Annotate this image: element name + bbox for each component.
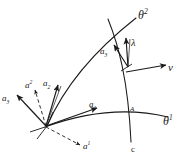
- a2-subscript: 2: [48, 84, 51, 90]
- label-a2: a2: [43, 79, 50, 90]
- a3-subscript: 3: [7, 99, 10, 105]
- normal-vector-nu: [126, 65, 166, 72]
- tangent-vector-lambda-edge: [128, 39, 130, 67]
- label-a1: a1: [89, 100, 96, 111]
- label-lambda: λ: [131, 38, 136, 49]
- covariant-base-vector-a2: [46, 85, 58, 126]
- contravariant-base-vector-a1: [46, 127, 80, 145]
- label-curve-c: c: [131, 145, 135, 154]
- a2-contra-superscript: 2: [30, 79, 33, 85]
- a3-mid-subscript: 3: [105, 52, 108, 58]
- covariant-base-vector-a3: [17, 95, 46, 126]
- label-a3: a3: [2, 94, 9, 105]
- theta1-superscript: 1: [169, 113, 173, 122]
- label-nu: ν: [168, 62, 173, 73]
- label-point-marker: A: [130, 106, 134, 113]
- a1-contra-superscript: 1: [88, 140, 91, 146]
- label-a-contravariant-2: a2: [25, 80, 32, 90]
- geometry-figure: θ2 θ1 λ ν a3 a3 a2 a2 a1 a1 c A: [0, 0, 187, 162]
- covariant-base-vector-a2-edge: [46, 86, 61, 126]
- label-theta-2: θ2: [138, 8, 148, 21]
- theta2-superscript: 2: [144, 7, 148, 16]
- tangent-vector-lambda: [126, 38, 128, 67]
- curve-c: [108, 19, 131, 142]
- a1-subscript: 1: [94, 105, 97, 111]
- label-a-contravariant-1: a1: [83, 141, 90, 151]
- normal-vector-a3-at-point: [114, 45, 128, 67]
- label-a3-at-point: a3: [100, 47, 107, 58]
- label-theta-1: θ1: [163, 114, 173, 127]
